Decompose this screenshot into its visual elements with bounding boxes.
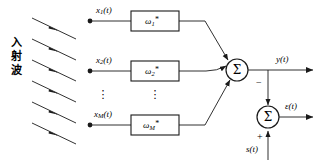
weight-superscript-1: * [155, 15, 159, 24]
sensor-node-2 [88, 69, 93, 74]
weight-label-M: ωM* [143, 120, 159, 131]
incident-wave-ray-2 [32, 39, 76, 60]
incident-wave-rays [32, 18, 76, 144]
array-output-label: y(t) [276, 55, 289, 64]
signal-arg-2: (t) [103, 55, 112, 65]
block-diagram-canvas [0, 0, 319, 163]
signal-arg-3: (t) [103, 109, 112, 119]
signal-label-x2: x2(t) [96, 56, 112, 66]
error-output-label: ε(t) [285, 102, 297, 111]
error-summer-glyph: Σ [261, 111, 275, 123]
signal-column-ellipsis: ⋮ [97, 89, 109, 100]
signal-label-xM: xM(t) [94, 110, 112, 120]
incident-wave-ray-4 [32, 81, 76, 102]
weight-label-2: ω2* [145, 66, 159, 77]
signal-label-x1: x1(t) [96, 6, 112, 16]
incident-wave-ray-5 [32, 102, 76, 123]
channel-wire-2-out [179, 66, 226, 71]
weight-superscript-2: * [155, 65, 159, 74]
channel-wire-3-out [179, 80, 230, 125]
sensor-node-3 [88, 123, 93, 128]
weight-column-ellipsis: ⋮ [149, 89, 161, 100]
incident-wave-ray-1 [32, 18, 76, 39]
incident-wave-ray-3 [32, 60, 76, 81]
sensor-nodes [88, 19, 93, 128]
channel-wire-1-out [179, 21, 228, 60]
sensor-node-1 [88, 19, 93, 24]
reference-plus-sign: + [257, 132, 263, 142]
reference-signal-label: s(t) [246, 145, 258, 154]
weight-superscript-3: * [155, 119, 159, 128]
array-output-summer-glyph: Σ [230, 64, 244, 76]
feedback-minus-sign: − [256, 78, 262, 88]
weight-label-1: ω1* [145, 16, 159, 27]
incident-wave-ray-6 [32, 123, 76, 144]
signal-arg-1: (t) [103, 5, 112, 15]
